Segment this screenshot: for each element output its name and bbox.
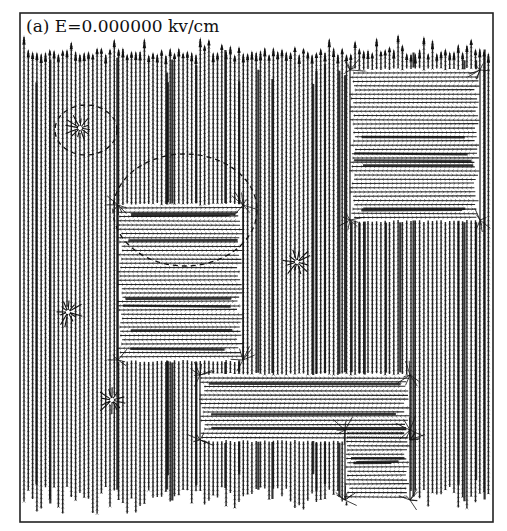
upper-right-horizontal-domain <box>339 58 491 232</box>
left-center-horizontal-domain <box>107 192 258 371</box>
polarization-vector-field-figure <box>0 0 507 531</box>
small-vortex-icon <box>66 115 91 139</box>
left-vortex-icon <box>57 301 83 328</box>
panel-label: (a) E=0.000000 kv/cm <box>26 15 222 37</box>
small-dashed-ellipse <box>55 105 117 155</box>
lower-left-vortex-icon <box>100 387 125 414</box>
